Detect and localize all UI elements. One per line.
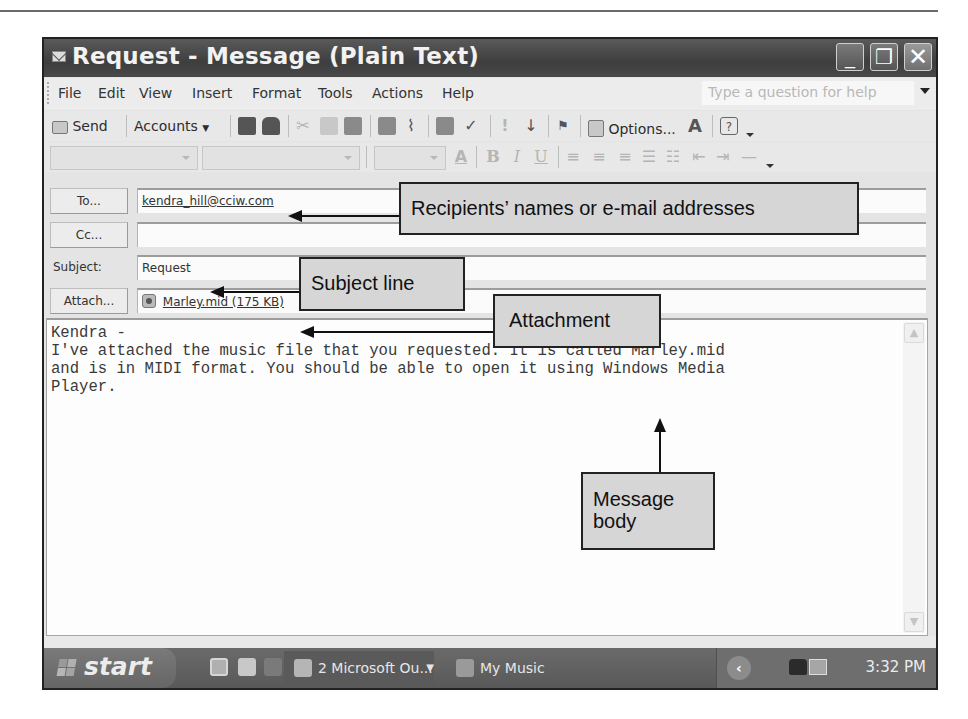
minimize-button[interactable]: _ [836, 43, 864, 71]
decrease-indent-icon[interactable]: ⇤ [690, 148, 708, 166]
underline-icon[interactable]: U [532, 148, 550, 166]
menu-format[interactable]: Format [252, 85, 301, 101]
folder-icon [456, 659, 474, 677]
toolbar-separator [126, 115, 127, 137]
help-dropdown-arrow-icon[interactable] [920, 88, 930, 94]
taskbar: start 2 Microsoft Ou... ▼ My Music ‹ 3:3… [44, 648, 936, 688]
message-window: Request - Message (Plain Text) _ ❐ ✕ Fil… [42, 37, 938, 690]
subject-label: Subject: [53, 260, 102, 274]
subject-arrow [222, 291, 299, 293]
envelope-icon [52, 51, 66, 62]
restore-button[interactable]: ❐ [870, 43, 898, 71]
address-book-icon[interactable] [436, 117, 454, 135]
copy-icon[interactable] [320, 117, 338, 135]
show-hidden-icons-chevron-icon[interactable]: ‹ [727, 656, 751, 680]
message-body-callout: Message body [581, 472, 715, 550]
menu-bar: File Edit View Insert Format Tools Actio… [44, 78, 936, 110]
clock: 3:32 PM [866, 658, 926, 676]
font-name-combo[interactable] [202, 146, 360, 170]
align-left-icon[interactable]: ≡ [564, 148, 582, 166]
subject-callout: Subject line [299, 257, 465, 311]
toolbar-options-icon[interactable] [766, 164, 774, 168]
vertical-scrollbar[interactable]: ▲ ▼ [903, 322, 925, 633]
toolbar-separator [580, 115, 581, 137]
message-body[interactable]: Kendra - I've attached the music file th… [46, 318, 928, 636]
standard-toolbar: Send Accounts ▼ ✂ ⌇ ✓ ! ↓ ⚑ Options... A… [44, 111, 936, 141]
help-icon[interactable]: ? [720, 117, 738, 135]
bold-icon[interactable]: B [484, 148, 502, 166]
to-button[interactable]: To... [50, 188, 128, 214]
align-center-icon[interactable]: ≡ [590, 148, 608, 166]
high-importance-icon[interactable]: ! [496, 117, 514, 135]
help-search-input[interactable]: Type a question for help [702, 81, 914, 105]
options-button[interactable]: Options... [588, 117, 676, 137]
scroll-up-icon[interactable]: ▲ [904, 323, 924, 343]
page-top-rule [0, 10, 938, 12]
menu-help[interactable]: Help [442, 85, 474, 101]
accounts-label: Accounts [134, 118, 198, 134]
toolbar-separator [288, 115, 289, 137]
horizontal-line-icon[interactable]: — [740, 148, 758, 166]
menu-tools[interactable]: Tools [318, 85, 353, 101]
paste-icon[interactable] [344, 117, 362, 135]
menu-insert[interactable]: Insert [192, 85, 232, 101]
cc-button[interactable]: Cc... [50, 222, 128, 248]
menu-edit[interactable]: Edit [98, 85, 125, 101]
windows-flag-icon [56, 659, 77, 677]
insert-file-icon[interactable] [378, 117, 396, 135]
send-button[interactable]: Send [52, 117, 108, 137]
increase-indent-icon[interactable]: ⇥ [714, 148, 732, 166]
style-combo[interactable] [50, 146, 198, 170]
subject-field[interactable]: Request [137, 255, 926, 280]
cut-icon[interactable]: ✂ [294, 117, 312, 135]
to-recipient[interactable]: kendra_hill@cciw.com [142, 194, 274, 208]
toolbar-separator [548, 115, 549, 137]
toolbar-separator [490, 115, 491, 137]
toolbar-separator [712, 115, 713, 137]
quicklaunch-internet-explorer-icon[interactable] [238, 658, 256, 676]
menu-actions[interactable]: Actions [372, 85, 423, 101]
task-label: My Music [480, 660, 545, 676]
font-size-combo[interactable] [374, 146, 446, 170]
attach-paperclip-icon[interactable]: ⌇ [402, 117, 420, 135]
task-outlook[interactable]: 2 Microsoft Ou... ▼ [284, 651, 434, 685]
toolbar-options-icon[interactable] [746, 133, 754, 137]
toolbar-separator [366, 146, 367, 168]
send-label: Send [72, 118, 107, 134]
scroll-down-icon[interactable]: ▼ [904, 612, 924, 632]
menu-view[interactable]: View [139, 85, 172, 101]
accounts-dropdown-icon: ▼ [202, 123, 209, 133]
toolbar-separator [230, 115, 231, 137]
network-tray-icon[interactable] [809, 659, 827, 675]
quicklaunch-outlook-icon[interactable] [210, 658, 228, 676]
midi-file-icon [142, 294, 156, 308]
message-body-text[interactable]: Kendra - I've attached the music file th… [51, 324, 899, 396]
start-button[interactable]: start [44, 648, 176, 688]
menu-file[interactable]: File [58, 85, 81, 101]
task-label: 2 Microsoft Ou... [318, 660, 433, 676]
task-group-dropdown-icon: ▼ [426, 651, 434, 685]
flag-icon[interactable]: ⚑ [554, 117, 572, 135]
quicklaunch-browser-icon[interactable] [264, 658, 282, 676]
italic-icon[interactable]: I [508, 148, 526, 166]
save-icon[interactable] [238, 117, 256, 135]
font-color-icon[interactable]: A [452, 148, 470, 166]
close-button[interactable]: ✕ [904, 43, 932, 71]
print-icon[interactable] [262, 117, 280, 135]
system-tray: ‹ 3:32 PM [716, 648, 936, 688]
align-right-icon[interactable]: ≡ [616, 148, 634, 166]
printer-tray-icon[interactable] [789, 659, 807, 675]
bullets-icon[interactable]: ☰ [640, 148, 658, 166]
window-title: Request - Message (Plain Text) [72, 43, 479, 69]
attach-button[interactable]: Attach... [50, 288, 128, 314]
check-names-icon[interactable]: ✓ [462, 117, 480, 135]
accounts-button[interactable]: Accounts ▼ [134, 117, 209, 137]
send-icon [52, 121, 68, 134]
formatting-toolbar: A B I U ≡ ≡ ≡ ☰ ☷ ⇤ ⇥ — [44, 142, 936, 172]
attachment-callout: Attachment [493, 294, 661, 348]
numbering-icon[interactable]: ☷ [664, 148, 682, 166]
low-importance-icon[interactable]: ↓ [522, 117, 540, 135]
task-my-music[interactable]: My Music [446, 651, 596, 685]
font-icon[interactable]: A [686, 117, 704, 135]
menu-grip[interactable] [47, 82, 50, 104]
